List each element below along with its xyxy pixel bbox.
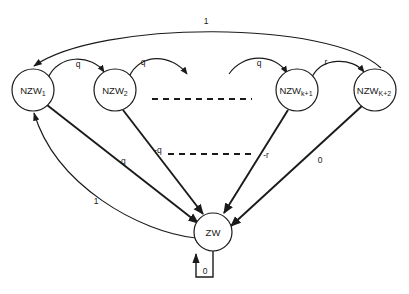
edge-label-zw-to-nzw1: 1 (94, 196, 99, 206)
edge-arc-nzwk1-to-nzwk2 (312, 61, 364, 77)
edge-label-nzwk2-to-zw: 0 (318, 155, 323, 165)
edge-label-arc-1-to-2: q (76, 59, 81, 69)
edge-label-arc-k2-to-1: 1 (204, 16, 209, 26)
edge-nzwk2-to-zw (231, 105, 363, 226)
edge-nzwk1-to-zw (224, 110, 288, 213)
edge-label-nzw1-to-zw: -q (118, 156, 126, 166)
edge-nzw2-to-zw (123, 110, 203, 214)
edge-label-arc-2-to-dots: q (141, 57, 146, 67)
edge-label-self-loop-zw: 0 (203, 266, 208, 276)
edge-label-nzw2-to-zw: -q (154, 145, 162, 155)
edge-label-arc-k1-to-k2: r (325, 57, 328, 67)
edge-zw-to-nzw1 (34, 113, 196, 238)
diagram-canvas: NZW1 NZW2 NZWk+1 NZWK+2 ZW 1 q q q r -q … (0, 0, 409, 294)
state-transition-diagram: NZW1 NZW2 NZWk+1 NZWK+2 ZW 1 q q q r -q … (0, 0, 409, 294)
node-label-zw: ZW (206, 227, 221, 238)
edge-label-arc-dots-to-k1: q (257, 58, 262, 68)
edge-label-nzwk1-to-zw: -r (263, 150, 269, 160)
edge-arc-nzw2-to-ellipsis (129, 59, 187, 77)
